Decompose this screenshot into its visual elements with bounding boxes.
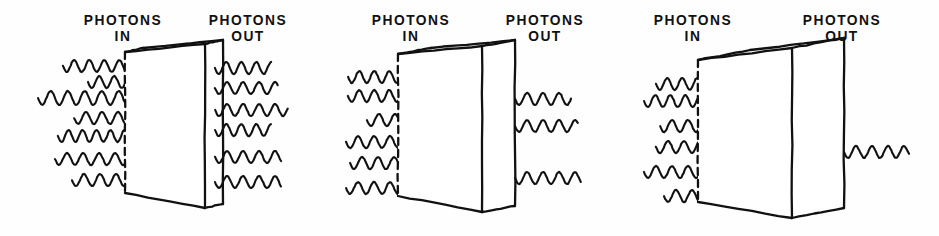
photon-wave-out — [215, 82, 278, 94]
photon-wave-out — [215, 151, 281, 163]
photon-wave-out — [215, 176, 281, 188]
photons-out-label-line2: OUT — [193, 28, 303, 44]
photons-in-label-line1: PHOTONS — [372, 11, 450, 28]
photons-out-label-line1: PHOTONS — [803, 11, 881, 28]
photons-out-label-line1: PHOTONS — [506, 11, 584, 28]
photons-out-label-line1: PHOTONS — [209, 11, 287, 28]
panel-medium-absorber: PHOTONSINPHOTONSOUT — [310, 0, 630, 236]
photons-in-label-line1: PHOTONS — [84, 11, 162, 28]
photons-out-label: PHOTONSOUT — [193, 12, 303, 44]
photon-wave-out — [515, 172, 581, 184]
panel-thin-absorber: PHOTONSINPHOTONSOUT — [0, 0, 320, 236]
photons-in-label-line1: PHOTONS — [654, 11, 732, 28]
slab-exit-face-vertical — [515, 40, 516, 206]
photons-in-label: PHOTONSIN — [638, 12, 748, 44]
absorber-body-fill — [398, 40, 515, 212]
photon-wave-out — [215, 104, 288, 116]
panel-thick-absorber: PHOTONSINPHOTONSOUT — [620, 0, 939, 236]
outgoing-photons — [515, 93, 581, 184]
photons-in-label-line2: IN — [638, 28, 748, 44]
photons-in-label: PHOTONSIN — [68, 12, 178, 44]
photon-wave-out — [515, 120, 578, 132]
absorber-body-fill — [698, 38, 844, 218]
photons-in-label: PHOTONSIN — [356, 12, 466, 44]
photons-out-label: PHOTONSOUT — [490, 12, 600, 44]
absorber-body-fill — [125, 40, 223, 208]
outgoing-photons — [844, 146, 909, 158]
slab-right-front-vertical — [205, 44, 206, 208]
slab-exit-face-vertical — [844, 38, 845, 208]
photons-out-label-line2: OUT — [787, 28, 897, 44]
photon-attenuation-figure: PHOTONSINPHOTONSOUTPHOTONSINPHOTONSOUTPH… — [0, 0, 939, 236]
photons-in-label-line2: IN — [68, 28, 178, 44]
photons-in-label-line2: IN — [356, 28, 466, 44]
outgoing-photons — [215, 62, 288, 188]
photons-out-label-line2: OUT — [490, 28, 600, 44]
photon-wave-out — [844, 146, 909, 158]
photons-out-label: PHOTONSOUT — [787, 12, 897, 44]
slab-right-front-vertical — [792, 48, 793, 218]
photon-wave-out — [515, 93, 571, 105]
